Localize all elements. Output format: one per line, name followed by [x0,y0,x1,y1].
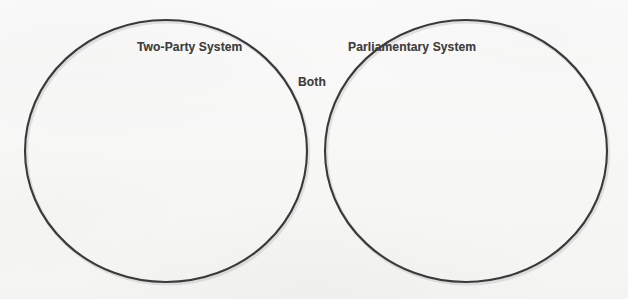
intersection-label: Both [298,75,326,88]
left-set-label: Two-Party System [137,40,242,53]
venn-circles-graphic [0,0,628,299]
venn-diagram-canvas: Two-Party System Parliamentary System Bo… [0,0,628,299]
right-set-label: Parliamentary System [348,40,476,53]
circle-shadow-group [27,22,609,284]
